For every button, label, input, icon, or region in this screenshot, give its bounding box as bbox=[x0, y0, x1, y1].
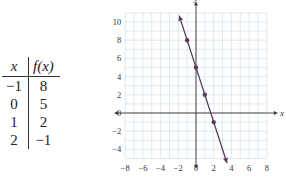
cell-x: 2 bbox=[2, 131, 28, 149]
data-point bbox=[203, 93, 207, 97]
table-row: −1 8 bbox=[2, 77, 60, 96]
y-tick-label: 2 bbox=[117, 90, 121, 100]
x-axis-arrow-icon bbox=[274, 111, 278, 115]
cell-fx: −1 bbox=[28, 131, 59, 149]
data-line bbox=[179, 16, 227, 163]
table-row: 2 −1 bbox=[2, 131, 60, 149]
data-point bbox=[212, 120, 216, 124]
x-tick-label: −6 bbox=[138, 163, 147, 173]
y-tick-label: 4 bbox=[117, 72, 122, 82]
cell-x: 0 bbox=[2, 95, 28, 113]
y-tick-label: 10 bbox=[113, 17, 122, 27]
x-tick-label: −8 bbox=[121, 163, 130, 173]
line-chart: xy−8−6−4−2024681086420−2−4 bbox=[100, 0, 286, 195]
x-tick-label: 4 bbox=[229, 163, 234, 173]
y-axis-label: y bbox=[193, 0, 198, 3]
header-fx: f(x) bbox=[28, 57, 59, 77]
y-tick-label: 0 bbox=[117, 108, 121, 118]
cell-x: −1 bbox=[2, 77, 28, 96]
line-arrow-icon bbox=[178, 16, 183, 22]
x-tick-label: 6 bbox=[247, 163, 251, 173]
data-point bbox=[185, 38, 189, 42]
cell-x: 1 bbox=[2, 113, 28, 131]
data-point bbox=[194, 65, 198, 69]
y-tick-label: 8 bbox=[117, 35, 121, 45]
y-tick-label: 6 bbox=[117, 53, 121, 63]
y-tick-label: −4 bbox=[112, 144, 122, 154]
header-x: x bbox=[2, 57, 28, 77]
x-tick-label: 0 bbox=[194, 163, 198, 173]
y-tick-label: −2 bbox=[112, 126, 121, 136]
x-tick-label: −4 bbox=[156, 163, 166, 173]
x-axis-label: x bbox=[279, 108, 284, 118]
x-tick-label: 8 bbox=[265, 163, 269, 173]
x-tick-label: 2 bbox=[212, 163, 216, 173]
x-tick-label: −2 bbox=[174, 163, 183, 173]
table-row: 1 2 bbox=[2, 113, 60, 131]
value-table: x f(x) −1 8 0 5 1 2 2 −1 bbox=[2, 57, 60, 149]
table-row: 0 5 bbox=[2, 95, 60, 113]
cell-fx: 2 bbox=[28, 113, 59, 131]
cell-fx: 5 bbox=[28, 95, 59, 113]
cell-fx: 8 bbox=[28, 77, 59, 96]
